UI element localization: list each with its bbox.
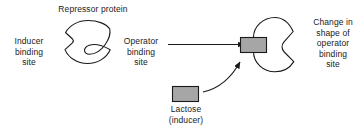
- binding-arrow: [203, 62, 240, 92]
- label-operator-binding-site: Operator binding site: [112, 36, 170, 68]
- diagram-canvas: Repressor protein Inducer binding site O…: [0, 0, 364, 131]
- lactose-box: [173, 87, 199, 102]
- label-lactose-inducer: Lactose (inducer): [148, 104, 224, 125]
- label-change-in-shape: Change in shape of operator binding site: [304, 17, 362, 70]
- bound-lactose-box: [241, 38, 267, 53]
- repressor-protein-unbound: [65, 21, 110, 64]
- label-inducer-binding-site: Inducer binding site: [2, 36, 56, 68]
- repressor-protein-unbound-outline: [65, 21, 110, 64]
- label-repressor-protein: Repressor protein: [38, 4, 148, 15]
